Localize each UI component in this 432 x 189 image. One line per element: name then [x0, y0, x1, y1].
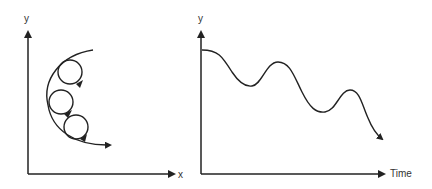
left-y-label: y	[24, 13, 29, 24]
left-diagram: y x	[24, 13, 183, 180]
right-diagram: y Time	[198, 13, 412, 179]
loop-3	[64, 115, 88, 139]
figure: y x y Time	[0, 0, 432, 189]
oscillating-curve	[202, 50, 382, 139]
loop-2	[49, 90, 73, 114]
loop-1	[58, 60, 82, 84]
right-x-label: Time	[390, 168, 412, 179]
right-y-label: y	[198, 13, 203, 24]
left-x-label: x	[178, 169, 183, 180]
